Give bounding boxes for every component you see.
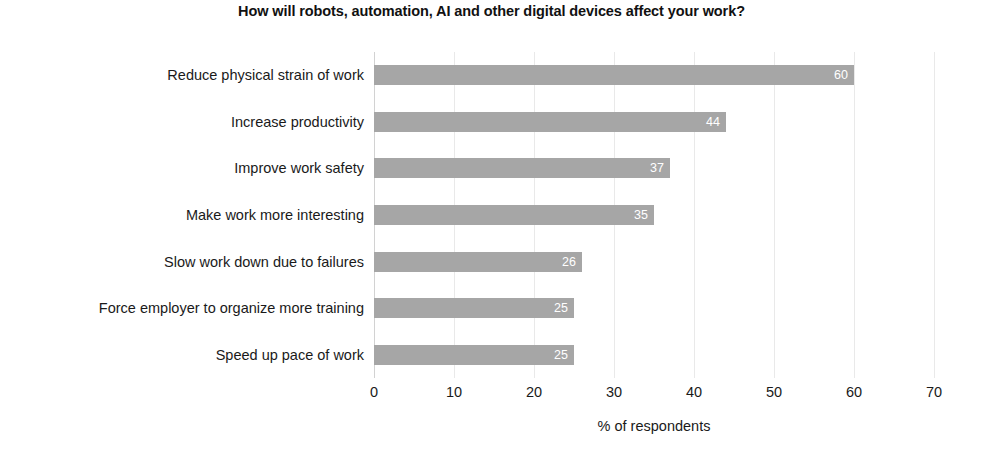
bar-value-label: 25	[554, 302, 568, 315]
bar-value-label: 60	[834, 69, 848, 82]
bar: 37	[374, 158, 670, 178]
gridline-40	[694, 52, 695, 378]
bar: 60	[374, 65, 854, 85]
x-tick-label: 20	[526, 385, 542, 400]
x-tick-label: 50	[766, 385, 782, 400]
category-label: Increase productivity	[231, 115, 364, 130]
x-axis-tick-labels: 010203040506070	[374, 385, 934, 405]
bar-value-label: 44	[706, 116, 720, 129]
bar-value-label: 37	[650, 162, 664, 175]
x-tick-label: 10	[446, 385, 462, 400]
bar-value-label: 25	[554, 348, 568, 361]
bar: 44	[374, 112, 726, 132]
category-label: Reduce physical strain of work	[167, 68, 364, 83]
category-label: Slow work down due to failures	[164, 255, 364, 270]
category-label: Improve work safety	[234, 161, 364, 176]
x-tick-label: 0	[370, 385, 378, 400]
x-tick-label: 30	[606, 385, 622, 400]
gridline-70	[934, 52, 935, 378]
chart-title: How will robots, automation, AI and othe…	[0, 3, 983, 19]
bar: 26	[374, 252, 582, 272]
bar-chart: How will robots, automation, AI and othe…	[0, 0, 983, 455]
bar: 25	[374, 298, 574, 318]
bar-value-label: 26	[562, 255, 576, 268]
category-label: Speed up pace of work	[216, 348, 364, 363]
bar: 35	[374, 205, 654, 225]
bar-value-label: 35	[634, 209, 648, 222]
bar: 25	[374, 345, 574, 365]
x-tick-label: 60	[846, 385, 862, 400]
category-label: Force employer to organize more training	[99, 301, 364, 316]
x-tick-label: 40	[686, 385, 702, 400]
x-axis-title: % of respondents	[374, 418, 934, 434]
plot-area: 60443735262525	[374, 52, 934, 378]
category-axis-labels: Reduce physical strain of workIncrease p…	[0, 52, 364, 378]
gridline-50	[774, 52, 775, 378]
x-tick-label: 70	[926, 385, 942, 400]
gridline-60	[854, 52, 855, 378]
category-label: Make work more interesting	[186, 208, 364, 223]
